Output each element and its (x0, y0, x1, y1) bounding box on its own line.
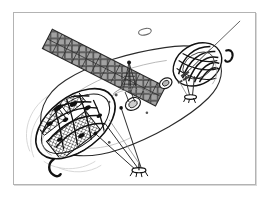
page-root (0, 0, 268, 199)
hook-marker-right (225, 50, 232, 62)
footpad-aft (130, 163, 148, 177)
figure-frame (13, 12, 256, 185)
spacecraft-illustration (14, 13, 255, 184)
detached-ring-marker (138, 27, 152, 36)
